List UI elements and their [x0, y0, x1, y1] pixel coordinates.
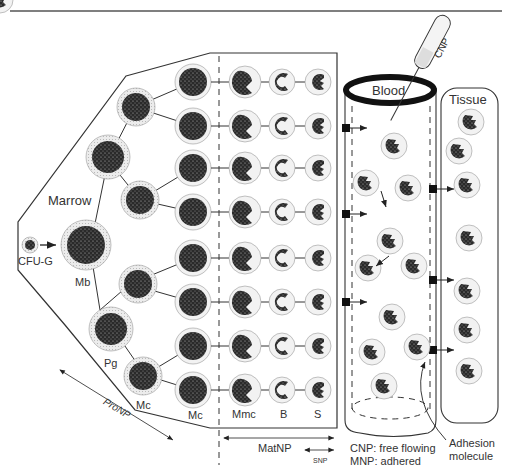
label-matnp: MatNP	[258, 442, 292, 454]
label-pronp: ProNP	[102, 396, 133, 421]
label-b: B	[280, 408, 287, 420]
label-snp: SNP	[313, 457, 328, 464]
cell-cfu-g	[22, 237, 38, 253]
columns-mmc-b-s	[229, 66, 331, 406]
callout-molecule: molecule	[449, 450, 493, 462]
label-blood: Blood	[372, 83, 405, 98]
adhesion-callout-line	[421, 362, 446, 440]
label-pg: Pg	[104, 357, 117, 369]
syringe-icon	[384, 13, 454, 125]
legend-cnp: CNP: free flowing	[350, 442, 436, 454]
label-tissue: Tissue	[449, 92, 487, 107]
migration-arrow	[381, 191, 386, 207]
callout-adhesion: Adhesion	[449, 437, 495, 449]
label-mmc: Mmc	[232, 408, 256, 420]
label-marrow: Marrow	[48, 193, 92, 208]
granulopoiesis-diagram: CFU-G Mb Pg Mc Mc	[0, 0, 512, 474]
label-mc: Mc	[188, 409, 203, 421]
cell-myeloblast	[61, 220, 111, 270]
legend-mnp: MNP: adhered	[350, 455, 421, 467]
column-mc	[175, 64, 211, 408]
label-mb: Mb	[75, 276, 90, 288]
label-mc-small: Mc	[136, 399, 151, 411]
label-cfu-g: CFU-G	[18, 255, 53, 267]
cell-myelocyte-mid	[117, 88, 162, 395]
label-s: S	[314, 408, 321, 420]
